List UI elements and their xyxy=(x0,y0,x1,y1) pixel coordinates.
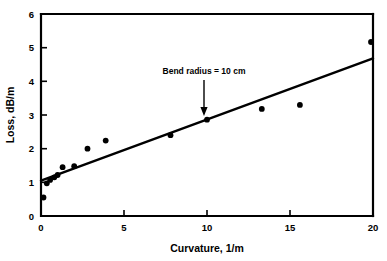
data-point xyxy=(85,146,91,152)
y-tick-label-3: 3 xyxy=(29,110,34,121)
data-point xyxy=(55,172,61,178)
data-points xyxy=(41,39,374,200)
x-tick-label-20: 20 xyxy=(368,222,379,233)
data-point xyxy=(297,102,303,108)
y-axis-title: Loss, dB/m xyxy=(4,87,16,144)
data-point xyxy=(259,106,265,112)
data-point xyxy=(204,117,210,123)
data-point xyxy=(41,195,47,201)
bend-radius-annotation: Bend radius = 10 cm xyxy=(163,66,246,116)
axes-lines xyxy=(41,14,373,216)
y-tick-label-4: 4 xyxy=(29,76,35,87)
data-point xyxy=(368,39,374,45)
y-tick-label-1: 1 xyxy=(29,177,35,188)
data-point xyxy=(71,163,77,169)
plot-frame xyxy=(41,14,373,216)
x-axis-title: Curvature, 1/m xyxy=(170,242,244,254)
x-tick-label-10: 10 xyxy=(202,222,213,233)
x-tick-label-15: 15 xyxy=(285,222,296,233)
y-tick-label-0: 0 xyxy=(29,211,34,222)
y-tick-label-6: 6 xyxy=(29,9,34,20)
data-point xyxy=(168,132,174,138)
chart-figure: 0 1 2 3 4 5 6 0 5 10 15 20 Curvature, 1/… xyxy=(0,0,387,261)
x-tick-label-0: 0 xyxy=(38,222,43,233)
scatter-plot: 0 1 2 3 4 5 6 0 5 10 15 20 Curvature, 1/… xyxy=(0,0,387,261)
y-tick-label-5: 5 xyxy=(29,42,35,53)
data-point xyxy=(103,138,109,144)
y-tick-label-2: 2 xyxy=(29,143,34,154)
annotation-label: Bend radius = 10 cm xyxy=(163,66,246,76)
y-tick-labels: 0 1 2 3 4 5 6 xyxy=(29,9,35,222)
annotation-arrow-head-icon xyxy=(200,107,207,116)
data-point xyxy=(60,164,66,170)
x-tick-label-5: 5 xyxy=(121,222,127,233)
x-tick-labels: 0 5 10 15 20 xyxy=(38,222,378,233)
